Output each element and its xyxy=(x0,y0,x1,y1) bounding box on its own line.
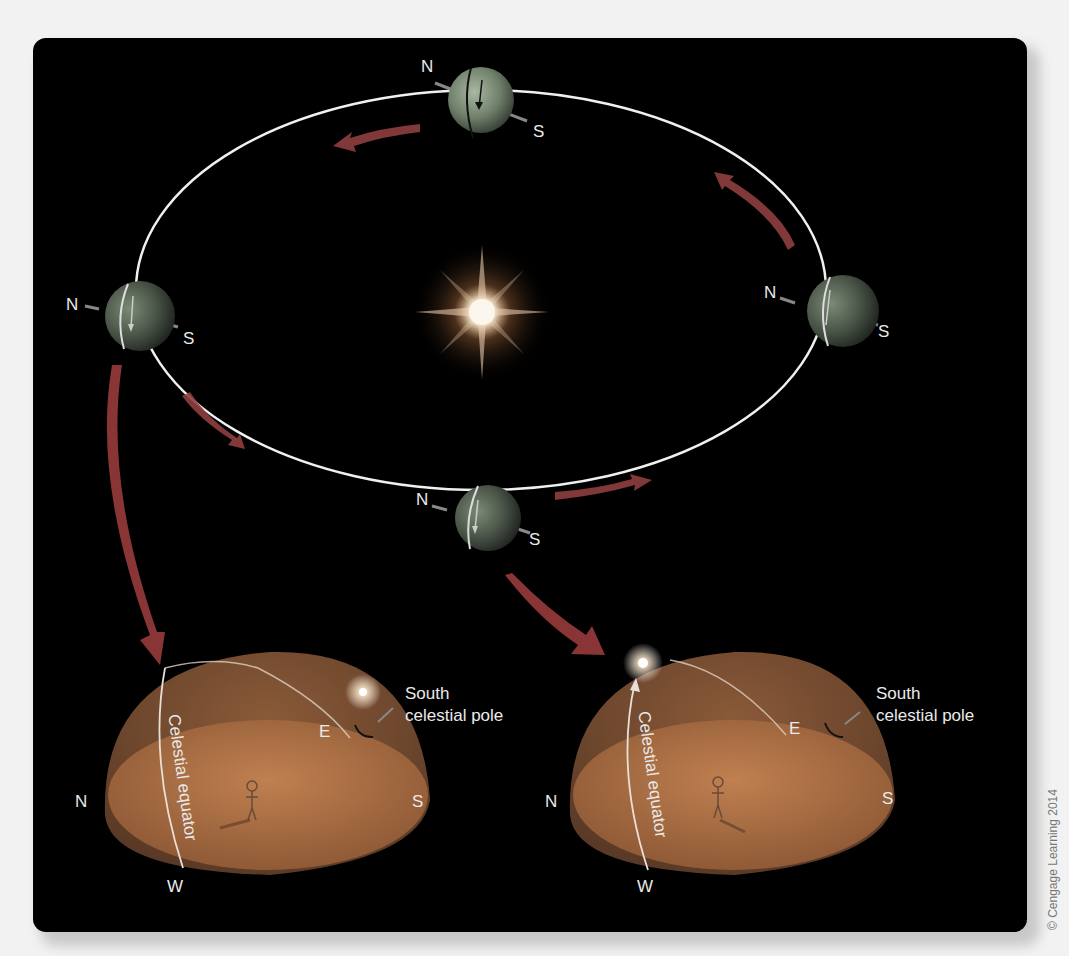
right-dome-east-label: E xyxy=(789,720,800,737)
arrow-to-left-dome xyxy=(107,365,165,665)
right-dome-pole-label: South celestial pole xyxy=(876,683,974,727)
left-dome-south-label: S xyxy=(412,793,423,810)
right-dome-west-label: W xyxy=(637,878,653,895)
right-dome-south-label: S xyxy=(882,790,893,807)
earth-right-south-label: S xyxy=(878,323,889,340)
diagram-panel: N S N S N S N S N S E W South celestial … xyxy=(33,38,1027,932)
pole-label-line1: South xyxy=(876,683,974,705)
earth-top-north-label: N xyxy=(421,58,433,75)
orbit-arrow-left xyxy=(182,392,245,449)
left-dome-west-label: W xyxy=(167,878,183,895)
left-dome-north-label: N xyxy=(75,793,87,810)
left-dome-east-label: E xyxy=(319,723,330,740)
pole-label-line2: celestial pole xyxy=(405,705,503,727)
earth-bottom-south-label: S xyxy=(529,531,540,548)
copyright-credit: © Cengage Learning 2014 xyxy=(1046,789,1060,930)
right-dome xyxy=(570,643,895,875)
left-dome xyxy=(105,652,430,875)
earth-top xyxy=(435,67,527,138)
left-dome-pole-label: South celestial pole xyxy=(405,683,503,727)
earth-top-south-label: S xyxy=(533,123,544,140)
pole-label-line1: South xyxy=(405,683,503,705)
orbit-arrow-top-left xyxy=(333,124,420,152)
right-dome-north-label: N xyxy=(545,793,557,810)
earth-right xyxy=(780,275,879,347)
earth-left-north-label: N xyxy=(66,296,78,313)
sun-icon xyxy=(412,242,552,382)
earth-right-north-label: N xyxy=(764,284,776,301)
earth-bottom xyxy=(432,485,530,551)
earth-left xyxy=(85,281,178,351)
arrow-to-right-dome xyxy=(505,573,605,655)
pole-label-line2: celestial pole xyxy=(876,705,974,727)
earth-bottom-north-label: N xyxy=(416,491,428,508)
earth-left-south-label: S xyxy=(183,330,194,347)
orbit-arrow-right xyxy=(714,172,795,250)
